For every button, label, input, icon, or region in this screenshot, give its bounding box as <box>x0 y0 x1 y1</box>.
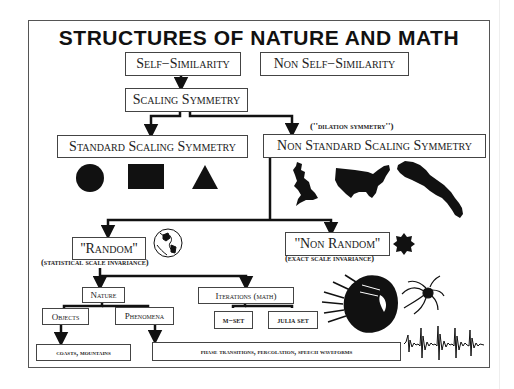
great-britain-map-icon <box>293 162 318 206</box>
iterations-node: Iterations (math) <box>198 287 294 304</box>
phase-transitions-node: phase transitions, percolation, speech w… <box>152 342 401 361</box>
non-standard-shapes <box>293 161 463 218</box>
nature-node: Nature <box>82 287 125 303</box>
non-random-note: (exact scale invariance) <box>285 253 374 263</box>
mandelbrot-set-icon <box>322 275 398 333</box>
koch-snowflake-icon <box>393 233 415 255</box>
dilation-symmetry-note: (''dilation symmetry'') <box>310 121 394 131</box>
non-standard-scaling-symmetry-node: Non Standard Scaling Symmetry <box>263 134 486 158</box>
julia-set-node: julia set <box>268 311 318 329</box>
connector-layer <box>0 0 514 389</box>
usa-map-icon <box>335 165 390 198</box>
circle-shape <box>76 164 104 192</box>
coastline-map-icon <box>397 161 463 218</box>
phenomena-node: Phenomena <box>115 307 174 325</box>
non-self-similarity-node: Non Self−Similarity <box>260 52 409 76</box>
speech-waveform-icon <box>404 326 484 360</box>
julia-set-icon <box>402 276 444 314</box>
triangle-shape <box>192 165 218 189</box>
random-note: (statistical scale invariance) <box>41 257 149 267</box>
coasts-mountains-node: coasts, mountains <box>36 344 131 361</box>
standard-shapes <box>76 164 218 192</box>
objects-node: Objects <box>42 308 89 325</box>
globe-icon <box>154 229 182 257</box>
m-set-node: m−set <box>214 311 253 329</box>
self-similarity-node: Self−Similarity <box>125 52 241 76</box>
rectangle-shape <box>128 164 164 189</box>
scaling-symmetry-node: Scaling Symmetry <box>125 88 248 112</box>
standard-scaling-symmetry-node: Standard Scaling Symmetry <box>57 135 248 158</box>
